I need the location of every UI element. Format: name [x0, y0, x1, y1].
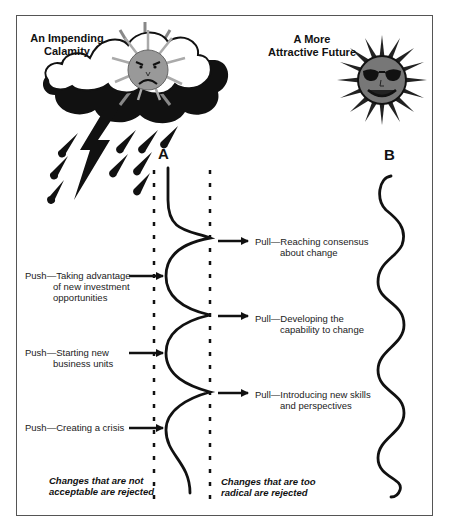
path-a-curve: [166, 168, 210, 493]
left-title: An Impending Calamity: [27, 32, 107, 58]
push-arrows: [129, 276, 163, 428]
right-boundary-note: Changes that are too radical are rejecte…: [221, 476, 316, 498]
pull-label-skills: Pull—Introducing new skills and perspect…: [255, 389, 371, 411]
pull-label-consensus: Pull—Reaching consensus about change: [255, 236, 369, 258]
path-b-label: B: [384, 146, 395, 163]
diagram-artwork: [0, 0, 453, 529]
push-label-business-units: Push—Starting new business units: [25, 347, 113, 369]
pull-arrows: [218, 241, 248, 393]
pull-label-capability: Pull—Developing the capability to change: [255, 313, 364, 335]
push-label-crisis: Push—Creating a crisis: [25, 422, 124, 433]
left-boundary-note: Changes that are not acceptable are reje…: [49, 475, 154, 497]
push-label-investment: Push—Taking advantage of new investment …: [25, 270, 131, 303]
path-a-label: A: [158, 145, 169, 162]
path-b-curve: [378, 176, 404, 497]
right-title: A More Attractive Future: [262, 33, 362, 59]
